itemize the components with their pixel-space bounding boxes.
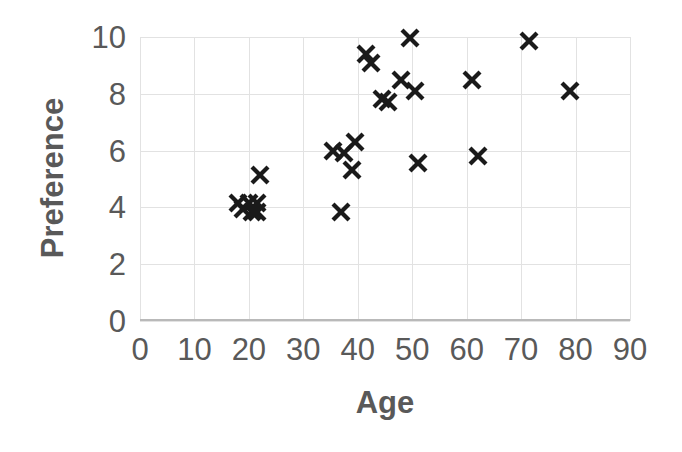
data-point-marker — [465, 143, 491, 169]
data-point-marker — [328, 199, 354, 225]
data-point-marker — [557, 78, 583, 104]
y-axis-title: Preference — [35, 28, 71, 328]
data-point-marker — [459, 67, 485, 93]
data-point-marker — [375, 89, 401, 115]
x-axis-title: Age — [140, 385, 630, 421]
gridline-vertical — [303, 37, 304, 321]
gridline-horizontal — [140, 264, 630, 265]
gridline-vertical — [521, 37, 522, 321]
x-axis-line — [140, 319, 630, 321]
data-point-marker — [397, 25, 423, 51]
scatter-chart: 0246810 0102030405060708090 Age Preferen… — [0, 0, 682, 452]
gridline-horizontal — [140, 37, 630, 38]
gridline-horizontal — [140, 207, 630, 208]
x-tick-label: 90 — [585, 334, 675, 365]
data-point-marker — [339, 157, 365, 183]
gridline-vertical — [630, 37, 631, 321]
data-point-marker — [405, 150, 431, 176]
gridline-horizontal — [140, 151, 630, 152]
x-axis-tick-labels: 0102030405060708090 — [140, 334, 630, 378]
data-point-marker — [247, 162, 273, 188]
data-point-marker — [342, 129, 368, 155]
gridline-vertical — [140, 37, 141, 321]
plot-area — [140, 37, 630, 321]
gridline-vertical — [194, 37, 195, 321]
data-point-marker — [402, 78, 428, 104]
data-point-marker — [516, 28, 542, 54]
data-point-marker — [358, 50, 384, 76]
gridline-horizontal — [140, 321, 630, 322]
data-point-marker — [244, 199, 270, 225]
